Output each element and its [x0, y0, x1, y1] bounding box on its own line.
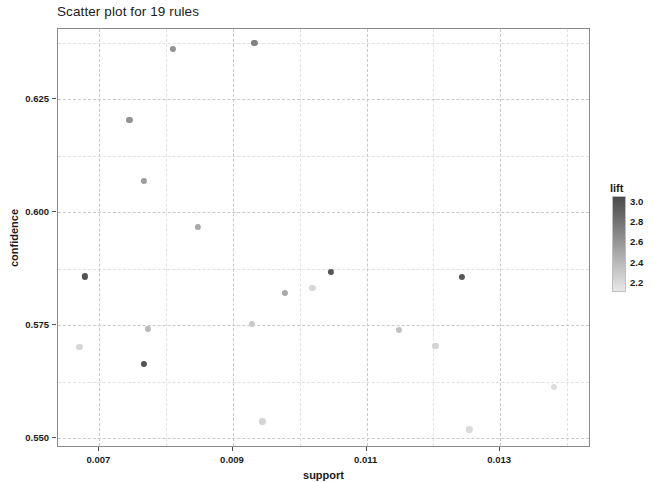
gridline-vertical	[500, 29, 501, 446]
legend-tick-label: 2.6	[630, 236, 643, 247]
gridline-horizontal	[58, 99, 589, 100]
scatter-point[interactable]	[459, 274, 465, 280]
scatter-point[interactable]	[309, 285, 315, 291]
gridline-vertical-minor	[300, 29, 301, 446]
scatter-point[interactable]	[141, 360, 147, 366]
scatter-point[interactable]	[144, 326, 150, 332]
scatter-point[interactable]	[126, 117, 132, 123]
gridline-vertical-minor	[567, 29, 568, 446]
scatter-point[interactable]	[251, 40, 257, 46]
scatter-point[interactable]	[195, 224, 201, 230]
scatter-point[interactable]	[249, 321, 255, 327]
y-axis-tick-label: 0.600	[15, 206, 49, 217]
scatter-point[interactable]	[551, 384, 557, 390]
x-axis-tick	[232, 447, 233, 451]
legend-tick-label: 2.2	[630, 276, 643, 287]
y-axis-title: confidence	[8, 208, 20, 266]
gridline-vertical-minor	[433, 29, 434, 446]
legend-tick-label: 2.4	[630, 256, 643, 267]
x-axis-tick	[98, 447, 99, 451]
scatter-point[interactable]	[82, 273, 88, 279]
legend-tick-label: 3.0	[630, 196, 643, 207]
gridline-horizontal-minor	[58, 156, 589, 157]
x-axis-title: support	[303, 469, 344, 481]
scatter-point[interactable]	[259, 418, 265, 424]
scatter-point[interactable]	[76, 344, 82, 350]
gridline-horizontal	[58, 212, 589, 213]
y-axis-tick-label: 0.550	[15, 432, 49, 443]
scatter-point[interactable]	[432, 342, 438, 348]
gridline-horizontal	[58, 325, 589, 326]
scatter-point[interactable]	[396, 327, 402, 333]
gridline-horizontal-minor	[58, 43, 589, 44]
gridline-vertical	[367, 29, 368, 446]
x-axis-tick-label: 0.013	[487, 454, 511, 465]
y-axis-tick	[52, 437, 56, 438]
gridline-vertical-minor	[166, 29, 167, 446]
legend-title: lift	[610, 182, 623, 194]
scatter-point[interactable]	[170, 46, 176, 52]
legend-colorbar	[612, 196, 626, 292]
x-axis-tick	[366, 447, 367, 451]
scatter-point[interactable]	[466, 426, 472, 432]
plot-area	[58, 29, 589, 446]
y-axis-tick	[52, 98, 56, 99]
scatter-point[interactable]	[327, 269, 333, 275]
x-axis-tick-label: 0.009	[220, 454, 244, 465]
gridline-vertical	[99, 29, 100, 446]
chart-title: Scatter plot for 19 rules	[57, 4, 199, 19]
x-axis-tick	[499, 447, 500, 451]
gridline-horizontal-minor	[58, 269, 589, 270]
x-axis-tick-label: 0.007	[87, 454, 111, 465]
y-axis-tick	[52, 324, 56, 325]
scatter-plot-figure: Scatter plot for 19 rules 0.0070.0090.01…	[0, 0, 655, 482]
y-axis-tick	[52, 211, 56, 212]
x-axis-tick-label: 0.011	[354, 454, 377, 465]
gridline-horizontal-minor	[58, 382, 589, 383]
gridline-horizontal	[58, 438, 589, 439]
legend-tick-label: 2.8	[630, 216, 643, 227]
y-axis-tick-label: 0.575	[15, 319, 49, 330]
gridline-vertical	[233, 29, 234, 446]
plot-panel	[57, 28, 590, 447]
scatter-point[interactable]	[282, 290, 288, 296]
y-axis-tick-label: 0.625	[15, 93, 49, 104]
scatter-point[interactable]	[141, 178, 147, 184]
